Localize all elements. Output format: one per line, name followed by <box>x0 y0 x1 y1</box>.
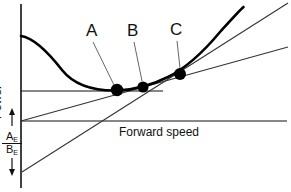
ratio-denominator-subscript: E <box>13 149 18 156</box>
down-arrow-head <box>9 169 15 176</box>
power-required-curve <box>21 7 244 91</box>
tangent-steep-line <box>22 3 288 172</box>
axis-group <box>21 4 287 188</box>
point-label-b: B <box>127 22 138 39</box>
ratio-label: AE BE <box>2 131 22 155</box>
data-point-a[interactable] <box>111 84 123 96</box>
data-point-b[interactable] <box>137 81 148 92</box>
ratio-numerator-subscript: E <box>13 136 18 143</box>
power-up-arrow-head <box>9 108 15 115</box>
ratio-denominator: BE <box>2 144 22 156</box>
y-axis-label: Power <box>0 85 3 119</box>
point-label-a: A <box>86 22 97 39</box>
leader-line-c <box>177 41 180 68</box>
x-axis-label: Forward speed <box>119 126 199 138</box>
power-curve-plot <box>0 0 291 192</box>
point-label-c: C <box>170 21 182 38</box>
leader-line-b <box>134 42 142 81</box>
data-point-c[interactable] <box>174 68 186 80</box>
power-curve-figure: A B C Forward speed Power AE BE <box>0 0 291 192</box>
leader-line-a <box>93 42 114 85</box>
tangent-lines-group <box>21 3 288 172</box>
